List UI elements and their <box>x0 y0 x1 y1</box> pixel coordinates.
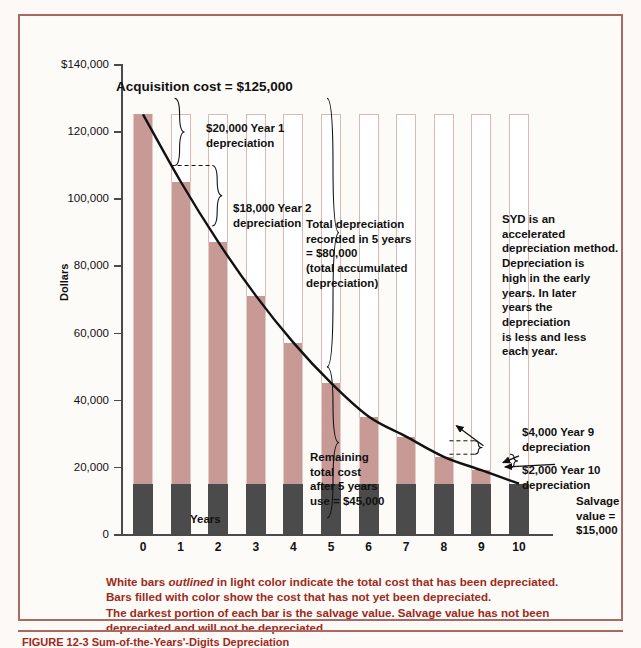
annotation-year2-depreciation: $18,000 Year 2 depreciation <box>233 201 311 230</box>
y-axis-tick <box>114 265 121 267</box>
annotation-remaining-cost: Remaining total cost after 5 years use =… <box>310 450 385 509</box>
y-axis-tick-label: 120,000 <box>67 125 109 137</box>
y-axis-tick-label: 40,000 <box>74 394 109 406</box>
annotation-acquisition-cost: Acquisition cost = $125,000 <box>116 78 293 95</box>
y-axis-tick-label: 80,000 <box>74 259 109 271</box>
annotation-total-depreciation-5yr: Total depreciation recorded in 5 years =… <box>306 217 411 291</box>
x-axis-title: Years <box>190 513 221 525</box>
x-axis-tick-label: 3 <box>252 540 259 554</box>
annotation-year1-depreciation: $20,000 Year 1 depreciation <box>206 121 284 150</box>
y-axis-tick <box>114 534 121 536</box>
y-axis-tick <box>114 131 121 133</box>
figure-caption: White bars outlined in light color indic… <box>106 574 616 636</box>
y-axis-tick-label: 20,000 <box>74 461 109 473</box>
x-axis-tick-label: 8 <box>440 540 447 554</box>
caption-line3: The darkest portion of each bar is the s… <box>106 606 549 619</box>
y-axis-tick <box>114 198 121 200</box>
y-axis-tick <box>114 467 121 469</box>
caption-line4: depreciated and will not be depreciated. <box>106 621 326 634</box>
figure-frame: $140,000120,000100,00080,00060,00040,000… <box>18 14 623 621</box>
y-axis-tick <box>114 400 121 402</box>
y-axis-tick <box>114 64 121 66</box>
y-axis-tick-label: 100,000 <box>67 192 109 204</box>
caption-line2: Bars filled with color show the cost tha… <box>106 590 491 603</box>
x-axis-tick-label: 7 <box>403 540 410 554</box>
x-axis-tick-label: 6 <box>365 540 372 554</box>
y-axis-tick-label: $140,000 <box>61 58 109 70</box>
x-axis-tick-label: 10 <box>512 540 525 554</box>
x-axis-tick-label: 4 <box>290 540 297 554</box>
annotation-salvage-value: Salvage value = $15,000 <box>576 494 621 538</box>
caption-line1-italic: outlined <box>169 575 214 588</box>
x-axis-tick-label: 1 <box>177 540 184 554</box>
x-axis-tick-label: 0 <box>140 540 147 554</box>
annotation-syd-note: SYD is an accelerated depreciation metho… <box>502 212 621 359</box>
annotation-year9-depreciation: $4,000 Year 9 depreciation <box>522 425 594 454</box>
y-axis-tick <box>114 333 121 335</box>
caption-line1-part2: in light color indicate the total cost t… <box>214 575 559 588</box>
bottom-divider-rule <box>18 630 623 632</box>
annotation-year10-depreciation: $2,000 Year 10 depreciation <box>522 463 600 492</box>
y-axis-title: Dollars <box>58 264 70 301</box>
y-axis-tick-label: 60,000 <box>74 327 109 339</box>
x-axis-tick-label: 9 <box>478 540 485 554</box>
x-axis-tick-label: 2 <box>215 540 222 554</box>
x-axis-tick-label: 5 <box>328 540 335 554</box>
caption-line1-part1: White bars <box>106 575 169 588</box>
figure-title: FIGURE 12-3 Sum-of-the-Years'-Digits Dep… <box>22 636 289 648</box>
y-axis-tick-label: 0 <box>103 528 109 540</box>
